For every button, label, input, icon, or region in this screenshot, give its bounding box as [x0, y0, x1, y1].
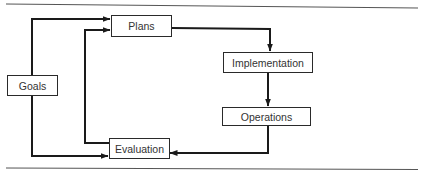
management-cycle-diagram: Plans Goals Implementation Operations Ev… — [0, 0, 421, 178]
node-implementation-label: Implementation — [232, 57, 304, 69]
node-plans-label: Plans — [128, 20, 154, 32]
bottom-rule — [6, 168, 418, 170]
node-evaluation-label: Evaluation — [115, 143, 164, 155]
node-operations-label: Operations — [241, 111, 292, 123]
node-plans: Plans — [111, 15, 172, 37]
arrow-plans-to-implementation — [172, 28, 270, 51]
top-rule — [6, 4, 418, 8]
arrow-goals-to-plans — [32, 19, 110, 75]
node-goals-label: Goals — [19, 80, 46, 92]
arrow-goals-to-evaluation — [32, 96, 108, 156]
arrow-evaluation-to-plans — [85, 30, 110, 143]
connector-layer — [0, 0, 421, 178]
node-implementation: Implementation — [223, 52, 313, 73]
node-goals: Goals — [7, 75, 58, 96]
arrow-operations-to-evaluation — [170, 126, 268, 153]
node-evaluation: Evaluation — [109, 138, 170, 159]
node-operations: Operations — [222, 107, 311, 126]
